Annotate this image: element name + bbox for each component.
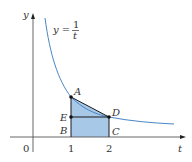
- y-axis-arrow-icon: [31, 13, 35, 19]
- equation-lhs: y =: [52, 24, 70, 35]
- tick-label-1: 1: [68, 143, 74, 154]
- hyperbola-diagram: y t 0 1 2 y = 1 t A E B D C: [0, 0, 192, 162]
- tick-label-2: 2: [106, 143, 112, 154]
- label-D: D: [111, 107, 120, 118]
- point-A: [69, 95, 73, 99]
- y-axis-label: y: [22, 9, 29, 20]
- origin-label: 0: [23, 143, 29, 154]
- x-axis-label: t: [178, 143, 183, 154]
- point-E: [69, 115, 73, 119]
- equation-denominator: t: [73, 30, 78, 41]
- point-D: [107, 115, 111, 119]
- label-B: B: [59, 125, 67, 136]
- label-E: E: [59, 112, 68, 123]
- equation-numerator: 1: [73, 19, 79, 30]
- label-A: A: [73, 86, 81, 97]
- x-axis-arrow-icon: [180, 135, 186, 139]
- label-C: C: [112, 126, 120, 137]
